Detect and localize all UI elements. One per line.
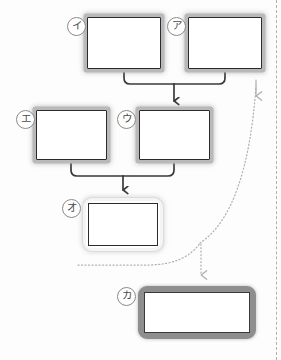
node-ka-inner [144, 292, 250, 333]
connector-a-to-u [174, 69, 225, 84]
node-ka-tag: カ [117, 287, 136, 306]
node-ka[interactable] [138, 286, 256, 339]
page-edge-rule [276, 0, 277, 360]
node-u-tag: ウ [117, 110, 136, 129]
node-i-tag: イ [67, 17, 86, 36]
node-i[interactable] [87, 17, 161, 69]
node-a-tag: ア [167, 17, 186, 36]
node-e[interactable] [36, 110, 107, 160]
node-a[interactable] [188, 17, 262, 69]
node-e-tag: エ [16, 110, 35, 129]
node-o-tag: オ [62, 199, 81, 218]
diagram-canvas: イ ア ウ エ オ カ [0, 0, 281, 360]
node-o-inner [88, 203, 158, 246]
node-o[interactable] [83, 198, 163, 251]
connector-u-to-o [123, 160, 174, 176]
connector-i-to-u [124, 69, 174, 84]
node-u[interactable] [139, 110, 210, 160]
connector-e-to-o [71, 160, 123, 176]
